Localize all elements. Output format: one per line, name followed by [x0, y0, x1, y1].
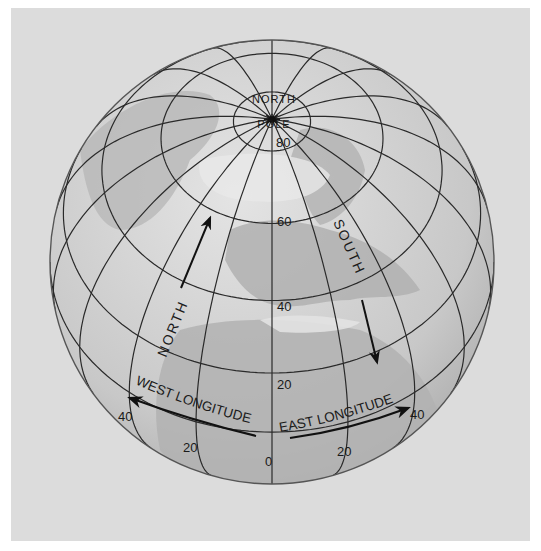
pole-label-north: NORTH [252, 93, 296, 105]
longitude-label-west-20: 20 [183, 440, 197, 455]
latitude-label-40: 40 [277, 299, 291, 314]
longitude-label-east-20: 20 [337, 444, 351, 459]
latitude-label-80: 80 [276, 135, 290, 150]
longitude-label-0: 0 [265, 454, 272, 469]
longitude-label-east-40: 40 [410, 407, 424, 422]
latitude-label-60: 60 [277, 214, 291, 229]
pole-label-pole: POLE [257, 118, 290, 130]
globe-diagram: NORTH POLE 80 60 40 20 0 20 40 20 40 NOR… [0, 0, 541, 551]
latitude-label-20: 20 [277, 377, 291, 392]
longitude-label-west-40: 40 [118, 409, 132, 424]
